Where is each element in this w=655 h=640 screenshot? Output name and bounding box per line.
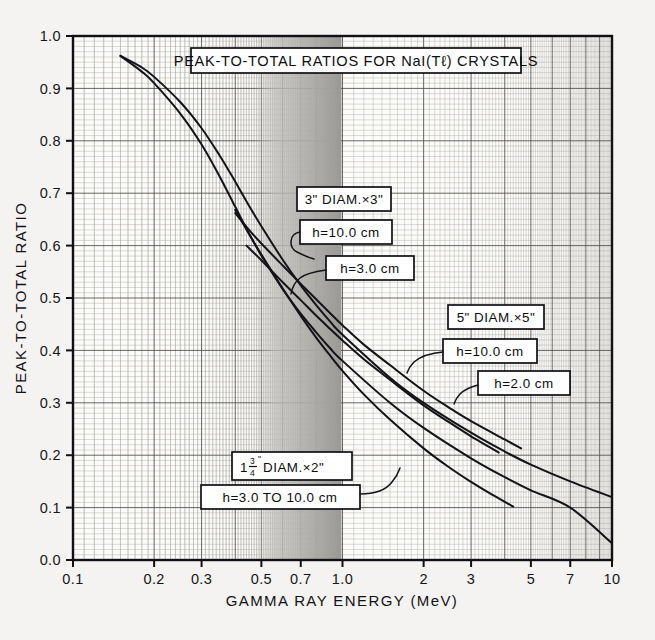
callout-3in-h3: h=3.0 cm — [326, 256, 414, 280]
callout-5in-h10: h=10.0 cm — [443, 339, 537, 363]
grid-major — [73, 36, 612, 560]
x-axis-title: GAMMA RAY ENERGY (MeV) — [226, 592, 459, 609]
x-tick-label: 0.5 — [251, 571, 272, 587]
y-tick-label: 0.3 — [40, 395, 61, 411]
callout-1p75in-frac-denominator: 4 — [250, 468, 255, 478]
callout-3in-h10: h=10.0 cm — [300, 220, 392, 244]
y-tick-label: 0.7 — [40, 185, 61, 201]
callout-5in-h10-label: h=10.0 cm — [456, 344, 523, 359]
figure-container: 0.10.20.30.50.71.0235710 0.00.10.20.30.4… — [0, 0, 655, 640]
y-tick-label: 0.2 — [40, 447, 61, 463]
x-tick-label: 1.0 — [332, 571, 353, 587]
x-tick-label: 5 — [527, 571, 535, 587]
callout-5in-h2: h=2.0 cm — [478, 371, 570, 395]
x-tick-label: 10 — [604, 571, 621, 587]
title-callout-label: PEAK-TO-TOTAL RATIOS FOR NaI(Tℓ) CRYSTAL… — [174, 53, 539, 69]
x-tick-label: 7 — [566, 571, 574, 587]
callout-3in-size: 3" DIAM.×3" — [297, 187, 391, 211]
callout-1p75in-size-prefix: 1 — [240, 460, 248, 475]
x-tick-label: 0.7 — [290, 571, 311, 587]
y-tick-label: 0.4 — [40, 343, 61, 359]
x-tick-label: 0.1 — [62, 571, 83, 587]
callout-1p75in-h: h=3.0 TO 10.0 cm — [201, 485, 360, 509]
callout-3in-size-label: 3" DIAM.×3" — [305, 192, 384, 207]
callout-5in-size: 5" DIAM.×5" — [448, 305, 544, 329]
shaded-energy-band — [253, 36, 341, 560]
callout-1p75in-frac-numerator: 3 — [250, 456, 255, 466]
callout-3in-h3-label: h=3.0 cm — [340, 261, 399, 276]
y-axis-title: PEAK-TO-TOTAL RATIO — [12, 202, 29, 394]
title-callout: PEAK-TO-TOTAL RATIOS FOR NaI(Tℓ) CRYSTAL… — [174, 48, 539, 73]
peak-to-total-ratio-chart: 0.10.20.30.50.71.0235710 0.00.10.20.30.4… — [0, 0, 655, 640]
y-tick-label: 0.1 — [40, 500, 61, 516]
y-tick-label: 0.6 — [40, 238, 61, 254]
callout-1p75in-inch-mark: " — [258, 454, 261, 464]
y-tick-label: 0.5 — [40, 290, 61, 306]
callout-1p75in-h-label: h=3.0 TO 10.0 cm — [222, 490, 337, 505]
y-tick-label: 0.0 — [40, 552, 61, 568]
y-tick-label: 1.0 — [40, 28, 61, 44]
y-tick-label: 0.8 — [40, 133, 61, 149]
x-tick-label: 0.2 — [143, 571, 164, 587]
callout-5in-size-label: 5" DIAM.×5" — [457, 310, 536, 325]
y-tick-label: 0.9 — [40, 81, 61, 97]
callout-5in-h2-label: h=2.0 cm — [494, 376, 553, 391]
callout-3in-h10-label: h=10.0 cm — [312, 225, 379, 240]
callout-1p75in-size: 1 3 4 " DIAM.×2" — [232, 452, 352, 480]
x-tick-label: 0.3 — [191, 571, 212, 587]
x-tick-label: 3 — [467, 571, 475, 587]
x-tick-label: 2 — [419, 571, 427, 587]
callout-1p75in-size-suffix: DIAM.×2" — [263, 460, 324, 475]
